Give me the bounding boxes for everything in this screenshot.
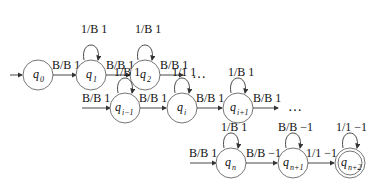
state-qn: 1/B 1 q n: [216, 120, 247, 178]
ellipsis: …: [288, 99, 302, 114]
transition-label: B/B 1: [52, 58, 80, 72]
self-loop: [138, 45, 153, 60]
state-subscript: 1: [93, 75, 97, 84]
state-subscript: n+1: [290, 163, 303, 172]
state-label: q: [341, 155, 347, 169]
state-circle: [216, 148, 246, 178]
self-loop: [231, 78, 246, 93]
state-subscript: 2: [147, 75, 151, 84]
state-subscript: n+2: [348, 163, 361, 172]
state-q1: 1/B 1 q 1: [76, 22, 107, 90]
state-qn+2: 1/1 −1 q n+2: [335, 120, 367, 178]
state-label: q: [115, 100, 121, 114]
state-label: q: [33, 67, 39, 81]
loop-label: B/B −1: [278, 120, 313, 134]
state-label: q: [283, 155, 289, 169]
self-loop: [286, 133, 301, 148]
state-qi+1: 1/B 1 q i+1: [223, 65, 254, 123]
state-subscript: n: [232, 163, 236, 172]
transition-label: B/B −1: [246, 146, 281, 160]
loop-label: 1/1 1: [172, 65, 196, 79]
state-label: q: [86, 67, 92, 81]
transition-label: 1/1 −1: [306, 146, 337, 160]
state-label: q: [225, 155, 231, 169]
self-loop: [175, 78, 190, 93]
state-label: q: [140, 67, 146, 81]
loop-label: 1/B 1: [81, 22, 107, 36]
state-label: q: [230, 100, 236, 114]
state-subscript: i: [184, 108, 186, 117]
transition-label: B/B 1: [196, 91, 224, 105]
row-3: B/B 1 1/B 1 q n B/B −1 B/B −1 q n+1 1/1 …: [189, 120, 367, 178]
state-subscript: i−1: [122, 108, 134, 117]
state-qi-1: 1/B 1 q i−1: [110, 65, 140, 123]
transition-label: B/B 1: [253, 91, 281, 105]
self-loop: [343, 133, 358, 148]
self-loop: [118, 78, 133, 93]
row-2: B/B 1 1/B 1 q i−1 B/B 1 1/1 1 q i B/B 1 …: [82, 65, 302, 123]
loop-label: 1/1 −1: [336, 120, 367, 134]
transition-label: B/B 1: [82, 91, 110, 105]
state-q0: q 0: [23, 60, 53, 90]
self-loop: [84, 45, 99, 60]
transition-label: B/B 1: [139, 91, 167, 105]
state-subscript: 0: [40, 75, 44, 84]
loop-label: 1/B 1: [228, 65, 254, 79]
state-label: q: [177, 100, 183, 114]
state-diagram: q 0 B/B 1 1/B 1 q 1 B/B 1 1/B 1 q 2 B/B …: [0, 0, 370, 190]
state-qi: 1/1 1 q i: [167, 65, 197, 123]
state-subscript: i+1: [237, 108, 249, 117]
row-1: q 0 B/B 1 1/B 1 q 1 B/B 1 1/B 1 q 2 B/B …: [10, 22, 206, 90]
self-loop: [224, 133, 239, 148]
transition-label: B/B 1: [189, 146, 217, 160]
loop-label: 1/B 1: [221, 120, 247, 134]
loop-label: 1/B 1: [114, 65, 140, 79]
state-q2: 1/B 1 q 2: [130, 22, 161, 90]
loop-label: 1/B 1: [135, 22, 161, 36]
